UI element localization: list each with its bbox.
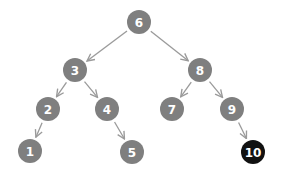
node-label: 8 [196,64,204,78]
node-label: 2 [44,103,52,117]
tree-node-1: 1 [18,139,42,163]
tree-node-9: 9 [220,97,244,121]
edge-6-to-8 [151,31,188,60]
tree-node-3: 3 [63,58,87,82]
tree-node-7: 7 [160,97,184,121]
tree-node-10: 10 [241,140,265,164]
tree-node-6: 6 [127,10,151,34]
edge-2-to-1 [36,123,42,137]
node-label: 10 [245,146,262,160]
edge-6-to-3 [87,31,127,61]
edge-3-to-2 [57,82,67,96]
node-label: 7 [168,103,176,117]
edge-4-to-5 [115,122,125,139]
node-label: 3 [71,64,79,78]
node-label: 1 [26,145,34,159]
edge-9-to-10 [239,122,247,138]
edge-8-to-9 [210,82,223,98]
node-label: 6 [135,16,143,30]
tree-node-8: 8 [188,58,212,82]
tree-node-2: 2 [36,97,60,121]
tree-node-4: 4 [95,97,119,121]
node-label: 4 [103,103,111,117]
node-label: 5 [128,146,136,160]
edge-8-to-7 [181,82,192,97]
tree-node-5: 5 [120,140,144,164]
nodes-layer: 63824791510 [18,10,265,164]
binary-tree-diagram: 63824791510 [0,0,284,176]
edge-3-to-4 [85,82,98,98]
node-label: 9 [228,103,236,117]
edges-layer [36,31,247,139]
